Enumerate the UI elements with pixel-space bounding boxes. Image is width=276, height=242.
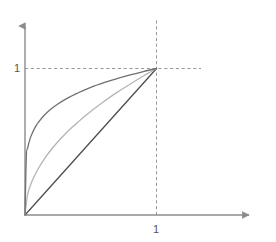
- x-axis-tick-label-1: 1: [153, 223, 159, 235]
- tick-labels-group: 1 1: [14, 62, 159, 235]
- chart-figure: 1 1: [0, 0, 276, 242]
- series-identity-line: [25, 69, 157, 216]
- axes-group: [25, 26, 249, 215]
- series-group: [25, 69, 157, 216]
- y-axis-tick-label-1: 1: [14, 62, 20, 74]
- plot-canvas: 1 1: [0, 0, 276, 242]
